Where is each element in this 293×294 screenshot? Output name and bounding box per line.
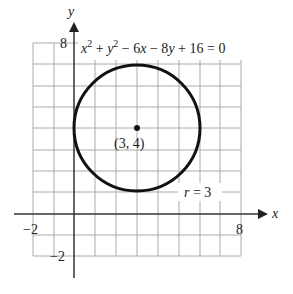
ymin-tick: −2	[50, 249, 65, 264]
xmax-tick: 8	[236, 222, 243, 237]
equation-label: x2 + y2 − 6x − 8y + 16 = 0	[80, 38, 225, 56]
center-point	[134, 125, 140, 131]
xmin-tick: −2	[23, 222, 38, 237]
y-axis-label: y	[66, 4, 75, 19]
x-axis-label: x	[271, 206, 279, 221]
ymax-tick: 8	[60, 36, 67, 51]
center-label: (3, 4)	[114, 136, 145, 152]
circle-graph: x y (3, 4) r = 3 −2 8 8 −2 x2 + y2 − 6x …	[0, 0, 293, 294]
radius-label: r = 3	[184, 185, 211, 200]
